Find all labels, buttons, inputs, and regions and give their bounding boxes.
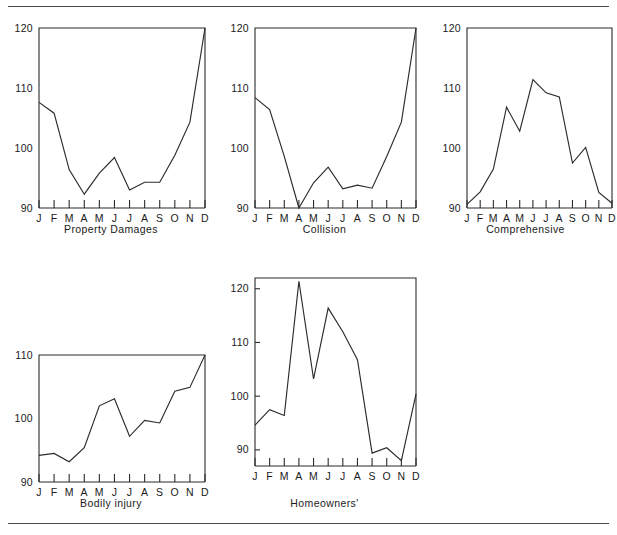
- data-series-line: [255, 281, 416, 460]
- line-chart-homeowners: 90100110120JFMAMJJASOND: [222, 268, 427, 510]
- y-axis-tick-label: 90: [449, 202, 461, 214]
- y-axis-tick-label: 100: [15, 142, 33, 154]
- x-axis-tick-label: S: [368, 470, 375, 482]
- y-axis-tick-label: 110: [15, 82, 33, 94]
- plot-frame: [39, 28, 205, 208]
- plot-frame: [255, 28, 416, 208]
- x-axis-tick-label: M: [309, 470, 318, 482]
- line-chart-bodily-injury: 90100110JFMAMJJASOND: [6, 345, 216, 510]
- y-axis-tick-label: 110: [443, 82, 461, 94]
- data-series-line: [39, 28, 205, 194]
- line-chart-property-damages: 90100110120JFMAMJJASOND: [6, 18, 216, 236]
- chart-panel-homeowners: 90100110120JFMAMJJASOND Homeowners': [222, 268, 427, 510]
- x-axis-tick-label: A: [354, 470, 361, 482]
- data-series-line: [255, 28, 416, 208]
- x-axis-tick-label: J: [325, 470, 331, 482]
- x-axis-tick-label: D: [412, 470, 420, 482]
- chart-panel-collision: 90100110120JFMAMJJASOND Collision: [222, 18, 427, 236]
- top-divider: [8, 6, 609, 7]
- bottom-divider: [8, 523, 609, 524]
- chart-caption-bodily-injury: Bodily injury: [6, 497, 216, 509]
- y-axis-tick-label: 90: [237, 443, 249, 455]
- y-axis-tick-label: 90: [237, 202, 249, 214]
- x-axis-tick-label: J: [252, 470, 258, 482]
- chart-caption-homeowners: Homeowners': [222, 497, 427, 509]
- y-axis-tick-label: 120: [443, 22, 461, 34]
- x-axis-tick-label: J: [340, 470, 346, 482]
- y-axis-tick-label: 100: [15, 412, 33, 424]
- plot-frame: [467, 28, 612, 208]
- y-axis-tick-label: 90: [21, 202, 33, 214]
- y-axis-tick-label: 100: [231, 142, 249, 154]
- x-axis-tick-label: A: [295, 470, 302, 482]
- data-series-line: [39, 355, 205, 462]
- y-axis-tick-label: 120: [231, 282, 249, 294]
- y-axis-tick-label: 90: [21, 476, 33, 488]
- x-axis-tick-label: N: [397, 470, 405, 482]
- x-axis-tick-label: F: [266, 470, 273, 482]
- x-axis-tick-label: O: [382, 470, 390, 482]
- line-chart-collision: 90100110120JFMAMJJASOND: [222, 18, 427, 236]
- plot-frame: [255, 278, 416, 466]
- line-chart-comprehensive: 90100110120JFMAMJJASOND: [434, 18, 617, 236]
- data-series-line: [467, 80, 612, 205]
- chart-panel-property-damages: 90100110120JFMAMJJASOND Property Damages: [6, 18, 216, 236]
- chart-caption-comprehensive: Comprehensive: [434, 223, 617, 235]
- chart-panel-comprehensive: 90100110120JFMAMJJASOND Comprehensive: [434, 18, 617, 236]
- chart-caption-collision: Collision: [222, 223, 427, 235]
- chart-panel-bodily-injury: 90100110JFMAMJJASOND Bodily injury: [6, 345, 216, 510]
- y-axis-tick-label: 120: [231, 22, 249, 34]
- x-axis-tick-label: M: [280, 470, 289, 482]
- y-axis-tick-label: 110: [231, 82, 249, 94]
- y-axis-tick-label: 100: [231, 390, 249, 402]
- y-axis-tick-label: 120: [15, 22, 33, 34]
- y-axis-tick-label: 110: [231, 336, 249, 348]
- y-axis-tick-label: 110: [15, 349, 33, 361]
- y-axis-tick-label: 100: [443, 142, 461, 154]
- chart-caption-property-damages: Property Damages: [6, 223, 216, 235]
